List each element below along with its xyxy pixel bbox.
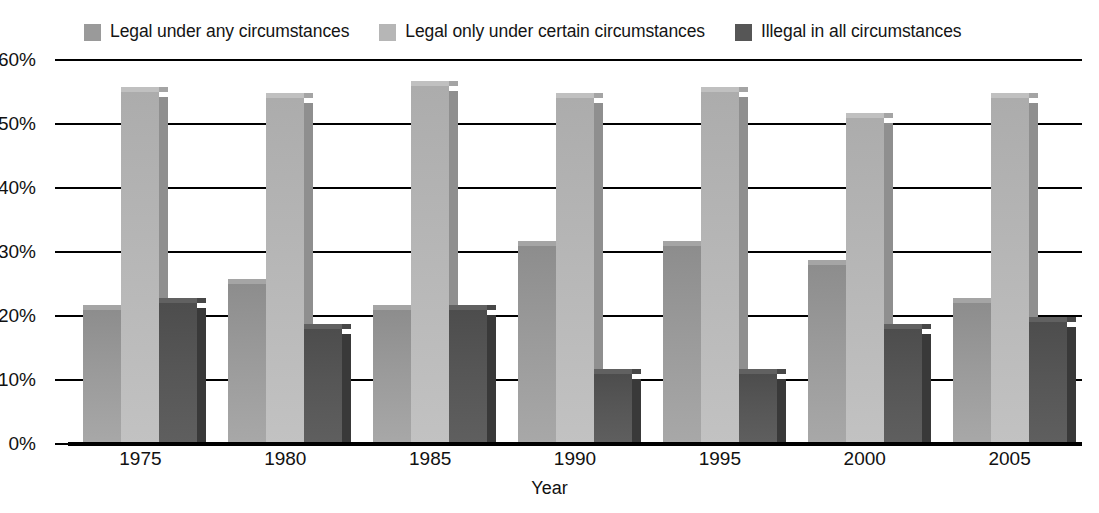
x-axis-tick-label: 2005 — [937, 448, 1082, 470]
bar-side-face — [197, 308, 206, 444]
legend-item-legal-any[interactable]: Legal under any circumstances — [84, 23, 349, 41]
bar-side-face — [1067, 327, 1076, 444]
bar-column[interactable] — [884, 329, 922, 444]
legend-item-illegal-all[interactable]: Illegal in all circumstances — [735, 23, 961, 41]
x-axis-tick-label: 2000 — [792, 448, 937, 470]
bar-front-face — [304, 329, 342, 444]
bar-1985-series1[interactable] — [411, 86, 449, 444]
bar-front-face — [991, 98, 1029, 444]
bar-column[interactable] — [594, 374, 632, 444]
bar-column[interactable] — [953, 303, 991, 444]
bar-side-face — [487, 315, 496, 444]
bar-column[interactable] — [449, 310, 487, 444]
y-axis-tick-mark — [55, 443, 68, 445]
bar-top-face — [411, 81, 449, 86]
bar-side-face — [342, 334, 351, 444]
bar-1995-series0[interactable] — [663, 246, 701, 444]
bar-column[interactable] — [411, 86, 449, 444]
bar-column[interactable] — [739, 374, 777, 444]
bar-front-face — [953, 303, 991, 444]
bar-top-face — [449, 305, 487, 310]
bar-column[interactable] — [556, 98, 594, 444]
bar-top-face — [159, 298, 197, 303]
bar-top-face — [228, 279, 266, 284]
x-axis-line — [68, 442, 1082, 446]
y-axis-tick-mark — [55, 315, 68, 317]
bar-top-face — [739, 369, 777, 374]
bar-column[interactable] — [518, 246, 556, 444]
bar-column[interactable] — [121, 92, 159, 444]
bar-1975-series1[interactable] — [121, 92, 159, 444]
bar-side-face — [632, 379, 641, 444]
bar-column[interactable] — [1029, 322, 1067, 444]
bar-column[interactable] — [83, 310, 121, 444]
bar-top-face — [663, 241, 701, 246]
bar-column[interactable] — [808, 265, 846, 444]
bar-1990-series0[interactable] — [518, 246, 556, 444]
bar-top-face — [594, 369, 632, 374]
bar-1995-series1[interactable] — [701, 92, 739, 444]
bar-2000-series2[interactable] — [884, 329, 922, 444]
y-axis-tick-mark — [55, 187, 68, 189]
bar-front-face — [518, 246, 556, 444]
bar-front-face — [411, 86, 449, 444]
bar-1990-series1[interactable] — [556, 98, 594, 444]
bar-top-face — [1029, 317, 1067, 322]
bar-front-face — [884, 329, 922, 444]
y-axis-tick-mark — [55, 251, 68, 253]
bar-2005-series0[interactable] — [953, 303, 991, 444]
bar-front-face — [556, 98, 594, 444]
bar-2005-series1[interactable] — [991, 98, 1029, 444]
bar-top-face — [808, 260, 846, 265]
bar-front-face — [846, 118, 884, 444]
bar-1980-series2[interactable] — [304, 329, 342, 444]
bar-top-face — [518, 241, 556, 246]
bar-top-face — [846, 113, 884, 118]
bar-1975-series0[interactable] — [83, 310, 121, 444]
bar-column[interactable] — [304, 329, 342, 444]
bar-column[interactable] — [228, 284, 266, 444]
bar-column[interactable] — [159, 303, 197, 444]
legend-item-label: Legal under any circumstances — [110, 23, 349, 41]
legend-item-legal-certain[interactable]: Legal only under certain circumstances — [379, 23, 705, 41]
legend-item-label: Illegal in all circumstances — [761, 23, 961, 41]
legend-swatch-icon — [735, 24, 752, 41]
y-axis-tick-mark — [55, 123, 68, 125]
bar-front-face — [83, 310, 121, 444]
bar-group — [358, 60, 503, 444]
y-axis-tick-label: 40% — [0, 177, 36, 199]
bar-1985-series0[interactable] — [373, 310, 411, 444]
bar-column[interactable] — [266, 98, 304, 444]
bar-1980-series0[interactable] — [228, 284, 266, 444]
bar-top-face — [556, 93, 594, 98]
bar-front-face — [663, 246, 701, 444]
y-axis-tick-label: 30% — [0, 241, 36, 263]
bar-top-face — [83, 305, 121, 310]
legend-swatch-icon — [84, 24, 101, 41]
bar-1975-series2[interactable] — [159, 303, 197, 444]
y-axis-tick-mark — [55, 379, 68, 381]
bar-2000-series1[interactable] — [846, 118, 884, 444]
bar-1985-series2[interactable] — [449, 310, 487, 444]
bar-1990-series2[interactable] — [594, 374, 632, 444]
bar-column[interactable] — [663, 246, 701, 444]
bar-column[interactable] — [991, 98, 1029, 444]
bar-2000-series0[interactable] — [808, 265, 846, 444]
bar-column[interactable] — [846, 118, 884, 444]
y-axis-tick-label: 0% — [9, 433, 36, 455]
bar-front-face — [121, 92, 159, 444]
bar-series-container — [68, 60, 1082, 444]
bar-2005-series2[interactable] — [1029, 322, 1067, 444]
bar-top-face — [304, 324, 342, 329]
bar-top-face — [953, 298, 991, 303]
bar-top-face — [884, 324, 922, 329]
plot-area: 60%50%40%30%20%10%0% — [68, 60, 1082, 444]
y-axis-tick-label: 20% — [0, 305, 36, 327]
bar-side-face — [777, 379, 786, 444]
bar-column[interactable] — [373, 310, 411, 444]
bar-1980-series1[interactable] — [266, 98, 304, 444]
bar-1995-series2[interactable] — [739, 374, 777, 444]
bar-column[interactable] — [701, 92, 739, 444]
bar-top-face — [373, 305, 411, 310]
bar-front-face — [808, 265, 846, 444]
